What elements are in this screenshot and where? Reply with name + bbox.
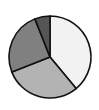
- pie-chart: [0, 0, 99, 110]
